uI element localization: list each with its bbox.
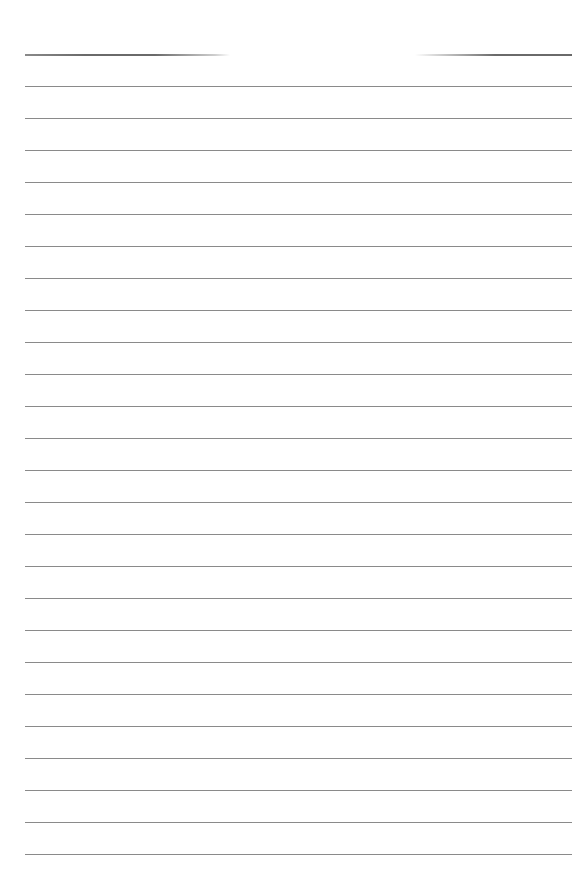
ruled-line	[25, 534, 572, 535]
ruled-line	[25, 662, 572, 663]
ruled-line	[25, 438, 572, 439]
ruled-line	[25, 214, 572, 215]
lined-paper-page	[0, 0, 584, 892]
ruled-line	[25, 246, 572, 247]
ruled-line	[25, 502, 572, 503]
ruled-line	[25, 566, 572, 567]
ruled-line	[25, 54, 572, 56]
ruled-line	[25, 278, 572, 279]
ruled-line	[25, 150, 572, 151]
ruled-line	[25, 310, 572, 311]
ruled-line	[25, 694, 572, 695]
ruled-line	[25, 470, 572, 471]
ruled-line	[25, 854, 572, 855]
ruled-line	[25, 406, 572, 407]
ruled-line	[25, 758, 572, 759]
ruled-line	[25, 374, 572, 375]
ruled-line	[25, 86, 572, 87]
ruled-line	[25, 118, 572, 119]
ruled-line	[25, 598, 572, 599]
ruled-line	[25, 342, 572, 343]
ruled-line	[25, 182, 572, 183]
ruled-line	[25, 790, 572, 791]
ruled-line	[25, 822, 572, 823]
ruled-line	[25, 630, 572, 631]
ruled-line	[25, 726, 572, 727]
